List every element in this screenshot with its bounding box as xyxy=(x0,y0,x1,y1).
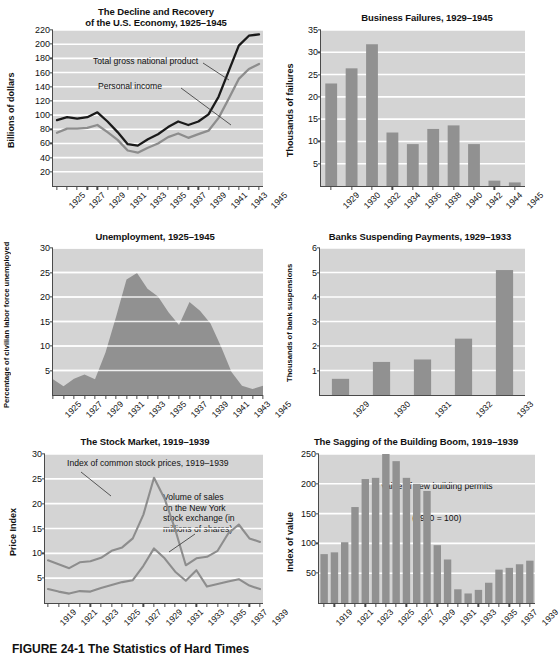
failures-x-tick-mark xyxy=(331,186,332,190)
unemployment-y-tick-label: 25 xyxy=(40,268,50,278)
unemployment-x-tick-label: 1931 xyxy=(126,399,147,420)
failures-y-tick-label: 10 xyxy=(308,136,318,146)
building-x-tick-label: 1937 xyxy=(519,607,540,628)
stock-x-tick-mark xyxy=(249,603,250,607)
unemployment-x-tick-mark xyxy=(136,395,137,399)
stock-y-tick-mark xyxy=(42,503,45,504)
unemployment-x-tick-label: 1933 xyxy=(147,399,168,420)
unemployment-y-tick-label: 20 xyxy=(40,292,50,302)
unemployment-x-tick-mark xyxy=(147,395,148,399)
failures-y-tick-label: 30 xyxy=(308,47,318,57)
chart-title-line-1: The Decline and Recovery xyxy=(40,6,272,17)
y-axis-label: Billions of dollars xyxy=(6,40,16,180)
stock-x-tick-mark xyxy=(185,603,186,607)
decline-y-tick-mark xyxy=(50,157,53,158)
failures-x-tick-mark xyxy=(514,186,515,190)
unemployment-y-tick-mark xyxy=(50,296,53,297)
unemployment-x-tick-mark xyxy=(199,395,200,399)
plot-area: Index of common stock prices, 1919–1939 … xyxy=(44,454,263,604)
failures-x-tick-mark xyxy=(351,186,352,190)
failures-y-tick-label: 20 xyxy=(308,92,318,102)
building-y-tick-label: 250 xyxy=(301,449,316,459)
figure-caption-label: FIGURE 24-1 xyxy=(12,642,85,654)
stock-x-tick-label: 1923 xyxy=(100,607,121,628)
building-x-tick-mark xyxy=(519,603,520,607)
decline-y-tick-mark xyxy=(50,171,53,172)
decline-x-tick-label: 1929 xyxy=(107,190,128,211)
banks-y-tick-mark xyxy=(317,345,320,346)
building-x-tick-mark xyxy=(447,603,448,607)
failures-y-tick-label: 15 xyxy=(308,114,318,124)
building-y-tick-label: 100 xyxy=(301,538,316,548)
stock-x-tick-mark xyxy=(69,603,70,607)
decline-y-tick-label: 220 xyxy=(35,25,50,35)
decline-y-tick-mark xyxy=(50,72,53,73)
banks-y-tick-mark xyxy=(317,247,320,248)
stock-x-tick-mark xyxy=(238,603,239,607)
stock-x-tick-mark xyxy=(47,603,48,607)
building-x-tick-label: 1935 xyxy=(498,607,519,628)
failures-x-tick-label: 1936 xyxy=(422,190,443,211)
building-y-tick-label: 50 xyxy=(306,568,316,578)
stock-y-tick-mark xyxy=(42,553,45,554)
stock-x-tick-label: 1921 xyxy=(79,607,100,628)
stock-x-tick-mark xyxy=(58,603,59,607)
decline-x-tick-mark xyxy=(87,186,88,190)
plot-area: 20406080100120140160180200220Total gross… xyxy=(52,30,263,187)
building-y-tick-mark xyxy=(316,453,319,454)
unemployment-x-tick-mark xyxy=(94,395,95,399)
y-axis-label: Percentage of civilian labor force unemp… xyxy=(2,220,11,430)
chart-title: The Sagging of the Building Boom, 1919–1… xyxy=(285,436,547,447)
chart-panel-banks-suspending-payments: Banks Suspending Payments, 1929–1933 Tho… xyxy=(277,218,554,440)
decline-y-tick-label: 40 xyxy=(40,153,50,163)
failures-x-tick-mark xyxy=(412,186,413,190)
stock-x-tick-label: 1931 xyxy=(185,607,206,628)
building-x-tick-mark xyxy=(365,603,366,607)
chart-panel-building-boom: The Sagging of the Building Boom, 1919–1… xyxy=(277,432,554,654)
failures-x-tick-label: 1940 xyxy=(463,190,484,211)
unemployment-x-tick-mark xyxy=(210,395,211,399)
building-x-tick-label: 1929 xyxy=(437,607,458,628)
building-y-tick-mark xyxy=(316,573,319,574)
failures-x-tick-label: 1932 xyxy=(382,190,403,211)
stock-y-tick-label: 15 xyxy=(32,524,42,534)
chart-panel-business-failures: Business Failures, 1929–1945 Thousands o… xyxy=(277,0,554,225)
unemployment-x-tick-mark xyxy=(168,395,169,399)
building-x-tick-mark xyxy=(488,603,489,607)
decline-x-tick-mark xyxy=(198,186,199,190)
unemployment-x-tick-mark xyxy=(231,395,232,399)
failures-y-tick-label: 35 xyxy=(308,25,318,35)
decline-x-tick-label: 1925 xyxy=(67,190,88,211)
building-y-tick-label: 150 xyxy=(301,509,316,519)
building-x-tick-label: 1939 xyxy=(539,607,560,628)
building-x-tick-mark xyxy=(498,603,499,607)
failures-x-tick-mark xyxy=(473,186,474,190)
decline-x-tick-mark xyxy=(167,186,168,190)
unemployment-x-tick-mark xyxy=(157,395,158,399)
banks-y-tick-mark xyxy=(317,370,320,371)
stock-y-tick-label: 25 xyxy=(32,474,42,484)
y-axis-label: Index of value xyxy=(285,492,295,592)
stock-y-tick-label: 10 xyxy=(32,548,42,558)
decline-x-tick-mark xyxy=(107,186,108,190)
stock-y-tick-label: 20 xyxy=(32,499,42,509)
unemployment-x-tick-mark xyxy=(178,395,179,399)
stock-y-tick-mark xyxy=(42,578,45,579)
chart-title: The Decline and Recovery of the U.S. Eco… xyxy=(40,6,272,28)
building-y-tick-mark xyxy=(316,483,319,484)
building-x-tick-mark xyxy=(437,603,438,607)
stock-x-tick-mark xyxy=(100,603,101,607)
decline-x-tick-mark xyxy=(188,186,189,190)
banks-x-tick-label: 1933 xyxy=(514,399,535,420)
decline-x-tick-mark xyxy=(127,186,128,190)
stock-x-tick-label: 1935 xyxy=(227,607,248,628)
unemployment-y-tick-mark xyxy=(50,345,53,346)
failures-x-tick-label: 1945 xyxy=(524,190,545,211)
building-x-tick-label: 1925 xyxy=(395,607,416,628)
chart-panel-decline-and-recovery: The Decline and Recovery of the U.S. Eco… xyxy=(0,0,277,225)
building-x-tick-mark xyxy=(478,603,479,607)
decline-y-tick-mark xyxy=(50,114,53,115)
failures-x-tick-label: 1944 xyxy=(504,190,525,211)
building-x-tick-label: 1923 xyxy=(375,607,396,628)
unemployment-x-tick-label: 1929 xyxy=(105,399,126,420)
